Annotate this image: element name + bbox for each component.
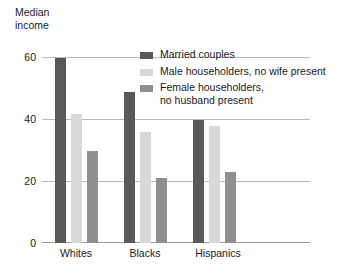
bar xyxy=(225,172,236,243)
y-axis-title: Median income xyxy=(15,6,49,31)
legend-swatch-icon-female-householders xyxy=(140,85,153,92)
legend-label-female-householders: Female householders, no husband present xyxy=(160,81,264,106)
bar xyxy=(209,126,220,243)
y-tick-label-20: 20 xyxy=(8,175,36,187)
legend-item-male-householders: Male householders, no wife present xyxy=(140,65,336,78)
bar xyxy=(124,92,135,243)
legend-item-female-householders: Female householders, no husband present xyxy=(140,81,336,106)
legend-item-married-couples: Married couples xyxy=(140,48,336,61)
legend-swatch-icon-male-householders xyxy=(140,69,153,76)
bar xyxy=(71,114,82,244)
y-tick-label-60: 60 xyxy=(8,51,36,63)
legend-label-married-couples: Married couples xyxy=(160,48,235,61)
x-axis-label-whites: Whites xyxy=(42,247,110,259)
bar xyxy=(55,58,66,243)
x-axis-label-blacks: Blacks xyxy=(111,247,179,259)
y-tick-label-40: 40 xyxy=(8,113,36,125)
legend-swatch-icon-married-couples xyxy=(140,52,153,59)
legend-label-male-householders: Male householders, no wife present xyxy=(160,65,326,78)
legend: Married couples Male householders, no wi… xyxy=(140,48,336,110)
y-tick-label-0: 0 xyxy=(8,237,36,249)
bar xyxy=(193,120,204,243)
x-axis-label-hispanics: Hispanics xyxy=(180,247,256,259)
bar xyxy=(87,151,98,244)
bar-chart: Median income 60 40 20 0 Whites Blacks H… xyxy=(0,0,340,280)
bar xyxy=(140,132,151,243)
bar xyxy=(156,178,167,243)
